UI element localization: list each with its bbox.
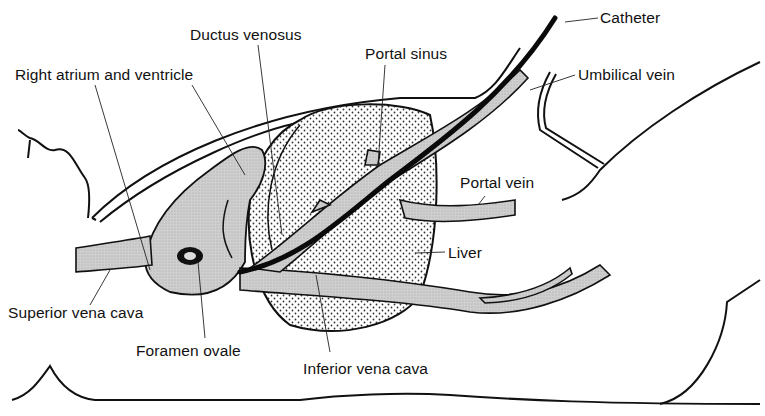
label-ductus-venosus: Ductus venosus (190, 27, 302, 43)
label-foramen-ovale: Foramen ovale (136, 343, 241, 359)
label-catheter: Catheter (600, 10, 660, 26)
label-portal-vein: Portal vein (460, 175, 534, 191)
label-liver: Liver (448, 245, 482, 261)
diagram-canvas: Catheter Umbilical vein Ductus venosus P… (0, 0, 765, 416)
anatomy-drawing (0, 0, 765, 416)
label-superior-vena-cava: Superior vena cava (8, 305, 143, 321)
superior-vena-cava-vessel (76, 236, 152, 272)
label-umbilical-vein: Umbilical vein (578, 67, 675, 83)
label-portal-sinus: Portal sinus (365, 46, 447, 62)
label-inferior-vena-cava: Inferior vena cava (303, 361, 428, 377)
label-right-atrium-and-ventricle: Right atrium and ventricle (15, 67, 193, 83)
